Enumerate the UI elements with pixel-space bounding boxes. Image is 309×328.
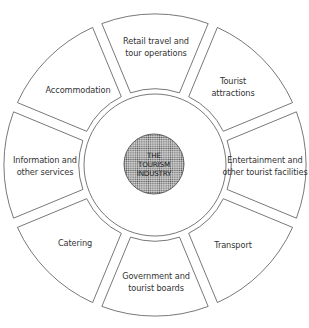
core-label-line: INDUSTRY [137, 169, 172, 178]
segment-label-entertainment: Entertainment and other tourist faciliti… [222, 154, 307, 178]
segment-label-retail-travel: Retail travel and tour operations [123, 35, 189, 59]
core-label: THE TOURISM INDUSTRY [137, 151, 172, 178]
segment-label-information: Information and other services [13, 154, 77, 178]
label-line: other services [13, 166, 77, 178]
segment-label-transport: Transport [214, 239, 252, 251]
core-label-line: TOURISM [137, 160, 172, 169]
segment-label-tourist-attractions: Tourist attractions [211, 75, 254, 99]
core-label-line: THE [137, 151, 172, 160]
label-line: Tourist [211, 75, 254, 87]
label-line: Information and [13, 154, 77, 166]
label-line: Transport [214, 239, 252, 251]
label-line: Catering [58, 237, 92, 249]
label-line: Government and [122, 270, 190, 282]
label-line: attractions [211, 87, 254, 99]
label-line: tour operations [123, 47, 189, 59]
label-line: tourist boards [122, 282, 190, 294]
label-line: other tourist facilities [222, 166, 307, 178]
label-line: Entertainment and [222, 154, 307, 166]
segment-label-catering: Catering [58, 237, 92, 249]
segment-label-accommodation: Accommodation [45, 84, 110, 96]
segment-label-government: Government and tourist boards [122, 270, 190, 294]
label-line: Retail travel and [123, 35, 189, 47]
label-line: Accommodation [45, 84, 110, 96]
